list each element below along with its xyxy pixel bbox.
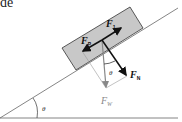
incline-line xyxy=(0,8,178,118)
incline-diagram: de F1 FP FN FW θ θ xyxy=(0,0,182,122)
theta-incline-arc xyxy=(33,98,38,118)
construction-line xyxy=(106,76,127,88)
title-fragment: de xyxy=(0,0,13,10)
label-fn: FN xyxy=(129,69,141,81)
block xyxy=(62,7,143,70)
label-fw: FW xyxy=(100,95,113,107)
theta-force-arc xyxy=(104,61,115,64)
label-theta-incline: θ xyxy=(42,105,46,113)
label-theta-force: θ xyxy=(109,69,113,77)
